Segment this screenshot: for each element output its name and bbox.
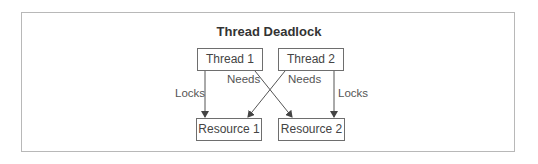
edges-layer bbox=[0, 0, 538, 164]
label-t1-locks: Locks bbox=[175, 87, 205, 99]
edge-t1-needs-r2 bbox=[255, 71, 292, 117]
label-t2-needs: Needs bbox=[288, 73, 321, 85]
label-t1-needs: Needs bbox=[227, 73, 260, 85]
node-resource-1: Resource 1 bbox=[196, 118, 262, 141]
node-resource-2: Resource 2 bbox=[278, 118, 345, 141]
node-thread-2: Thread 2 bbox=[278, 48, 344, 71]
label-t2-locks: Locks bbox=[338, 87, 368, 99]
node-thread-1: Thread 1 bbox=[197, 48, 263, 71]
